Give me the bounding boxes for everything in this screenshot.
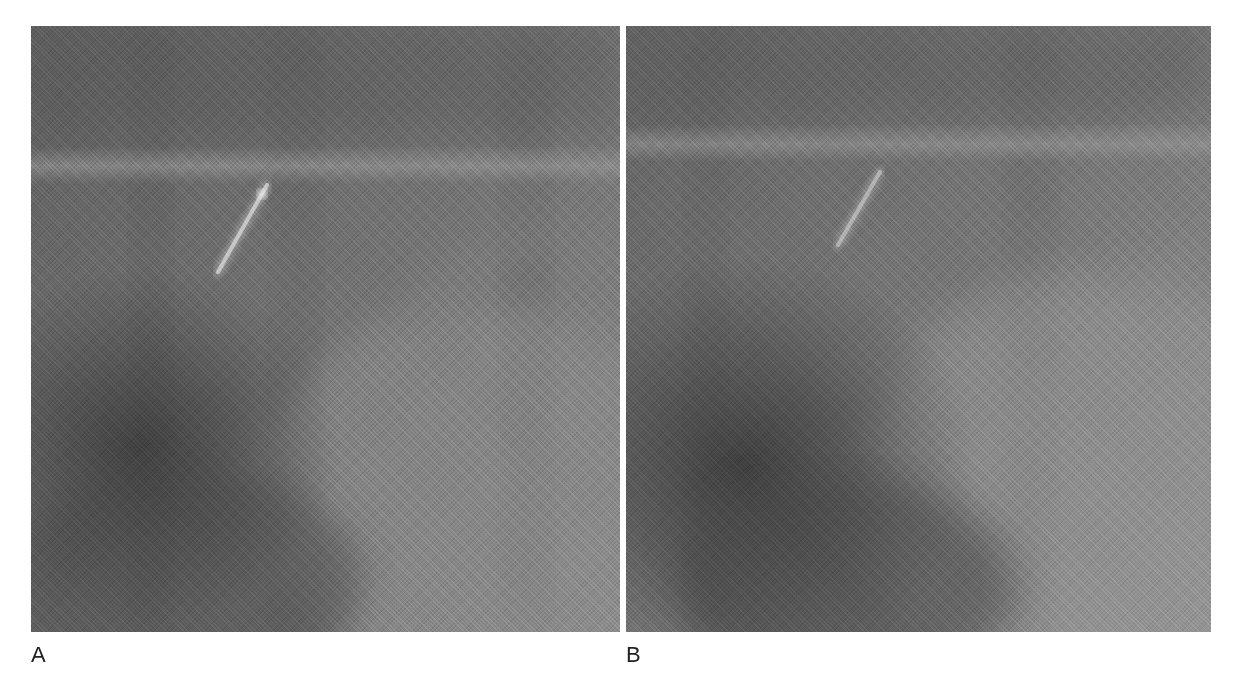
image-panel-b <box>626 26 1211 632</box>
image-panel-a <box>31 26 620 632</box>
panel-label-b: B <box>626 644 641 666</box>
halftone-texture <box>626 26 1211 632</box>
panel-label-a: A <box>31 644 46 666</box>
halftone-texture <box>31 26 620 632</box>
